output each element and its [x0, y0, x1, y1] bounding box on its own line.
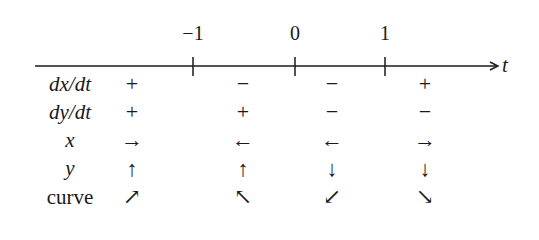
southwest-arrow-icon: ↙	[323, 184, 341, 210]
cell-dydt-1: +	[126, 99, 138, 125]
tick-label-1: 1	[380, 22, 390, 45]
northeast-arrow-icon: ↗	[123, 184, 141, 210]
row-label-dydt: dy/dt	[49, 100, 91, 125]
cell-dydt-3: −	[326, 99, 338, 125]
cell-dxdt-4: +	[419, 71, 431, 97]
cell-dydt-2: +	[237, 99, 249, 125]
cell-dxdt-3: −	[326, 71, 338, 97]
northwest-arrow-icon: ↖	[234, 184, 252, 210]
down-arrow-icon: ↓	[327, 156, 338, 182]
axis-variable-label: t	[502, 53, 508, 78]
right-arrow-icon: →	[414, 127, 436, 153]
cell-dxdt-1: +	[126, 71, 138, 97]
row-label-dxdt: dx/dt	[49, 72, 91, 97]
tick-label-neg1: −1	[182, 22, 203, 45]
row-label-y: y	[65, 156, 74, 181]
cell-dxdt-2: −	[237, 71, 249, 97]
row-label-curve: curve	[47, 185, 94, 210]
cell-dydt-4: −	[419, 99, 431, 125]
left-arrow-icon: ←	[321, 127, 343, 153]
southeast-arrow-icon: ↘	[416, 184, 434, 210]
row-label-x: x	[65, 128, 74, 153]
up-arrow-icon: ↑	[127, 156, 138, 182]
left-arrow-icon: ←	[232, 127, 254, 153]
down-arrow-icon: ↓	[420, 156, 431, 182]
right-arrow-icon: →	[121, 127, 143, 153]
up-arrow-icon: ↑	[238, 156, 249, 182]
tick-label-0: 0	[290, 22, 300, 45]
